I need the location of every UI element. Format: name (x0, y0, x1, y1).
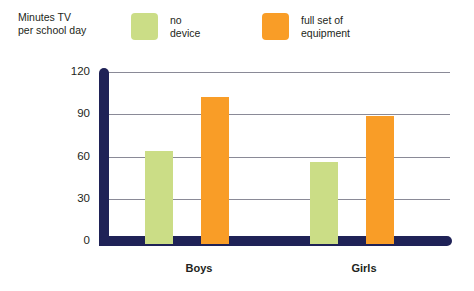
y-axis-tick-label: 60 (44, 151, 90, 163)
bar-girls-full-set (366, 116, 394, 244)
y-axis-tick-label: 0 (44, 235, 90, 247)
gridline (108, 114, 450, 115)
y-axis-tick: 0 (44, 235, 90, 247)
x-axis-group-label-girls: Girls (324, 262, 404, 274)
y-axis-tick-label: 120 (44, 66, 90, 78)
bar-girls-no-device (310, 162, 338, 244)
gridline (108, 72, 450, 73)
x-axis-group-label-boys: Boys (159, 262, 239, 274)
bar-boys-full-set (201, 97, 229, 244)
y-axis-tick-label: 90 (44, 108, 90, 120)
gridlines: 0306090120 (0, 0, 474, 291)
y-axis-tick: 60 (44, 151, 90, 163)
bar-boys-no-device (145, 151, 173, 244)
bar-chart: 0306090120 BoysGirls (0, 0, 474, 291)
y-axis-tick-label: 30 (44, 193, 90, 205)
y-axis-line (99, 68, 109, 246)
y-axis-tick: 30 (44, 193, 90, 205)
y-axis-tick: 90 (44, 108, 90, 120)
y-axis-tick: 120 (44, 66, 90, 78)
